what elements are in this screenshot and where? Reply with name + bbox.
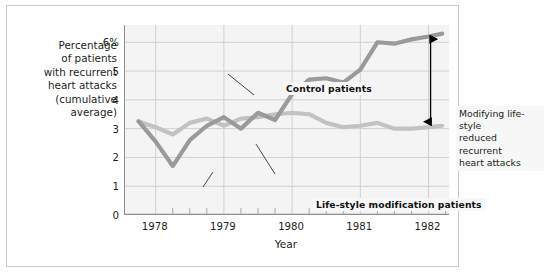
y-tick-label: 5	[113, 66, 119, 77]
x-tick-label: 1980	[278, 221, 304, 232]
annotation-lifestyle-patients: Life-style modification patients	[313, 198, 485, 211]
chart-canvas	[125, 25, 449, 215]
x-tick-label: 1981	[346, 221, 372, 232]
y-tick-label: 2	[113, 152, 119, 163]
y-tick-label: 4	[113, 94, 119, 105]
x-axis-title: Year	[124, 238, 448, 250]
x-axis-tick-labels: 19781979198019811982	[124, 221, 448, 235]
y-tick-label: 6%	[103, 37, 119, 48]
figure-frame: Percentage of patients with recurrent he…	[6, 5, 459, 267]
y-tick-label: 3	[113, 123, 119, 134]
x-tick-label: 1982	[415, 221, 441, 232]
x-tick-label: 1978	[142, 221, 168, 232]
y-tick-label: 0	[113, 210, 119, 221]
gridlines	[125, 25, 449, 215]
x-tick-label: 1979	[210, 221, 236, 232]
annotation-control-patients: Control patients	[283, 82, 375, 95]
plot-area: Control patients Life-style modification…	[124, 25, 449, 215]
difference-arrow	[203, 39, 431, 187]
y-axis-tick-labels: 0123456%	[93, 25, 119, 215]
y-tick-label: 1	[113, 181, 119, 192]
callout-note: Modifying life-style reduced recurrent h…	[456, 106, 544, 171]
